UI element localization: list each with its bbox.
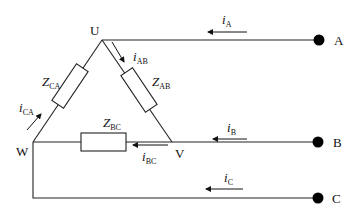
terminal-b-dot (313, 137, 324, 148)
terminal-a-dot (314, 35, 325, 46)
delta-circuit-diagram: U W V A B C ZCA ZAB ZBC iA iB iC iAB iBC… (0, 0, 352, 218)
label-i-ca: iCA (19, 100, 34, 117)
node-label-v: V (175, 146, 185, 161)
label-i-c: iC (224, 170, 233, 187)
label-z-ca: ZCA (42, 74, 61, 91)
terminal-label-b: B (333, 135, 342, 150)
label-z-ab: ZAB (152, 74, 170, 91)
label-i-a: iA (222, 12, 232, 29)
label-i-bc: iBC (142, 149, 156, 166)
wires (33, 40, 318, 198)
node-label-w: W (16, 144, 29, 159)
node-label-u: U (90, 23, 100, 38)
terminal-label-c: C (332, 191, 341, 206)
arrow-iab-icon (112, 42, 124, 62)
terminal-label-a: A (334, 33, 344, 48)
terminal-c-dot (313, 193, 324, 204)
impedance-bc (81, 133, 126, 151)
label-i-b: iB (227, 120, 236, 137)
label-i-ab: iAB (133, 49, 148, 66)
label-z-bc: ZBC (103, 115, 121, 132)
